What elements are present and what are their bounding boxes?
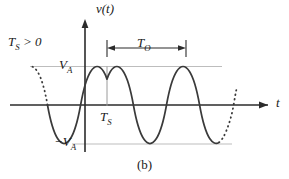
negative-amplitude-label: −VA <box>54 135 76 148</box>
y-axis-label: v(t) <box>96 2 114 15</box>
x-axis-arrowhead <box>259 102 268 109</box>
waveform-plot <box>0 0 289 179</box>
period-arrowhead-right <box>178 45 186 51</box>
period-arrowhead-left <box>107 45 115 51</box>
figure-caption: (b) <box>0 158 289 171</box>
y-axis-arrowhead <box>82 19 89 28</box>
positive-amplitude-label: VA <box>59 58 72 71</box>
shift-condition-label: TS > 0 <box>8 35 41 48</box>
period-label: TO <box>137 36 151 49</box>
figure-container: v(t) t TS > 0 VA −VA TS TO (b) <box>0 0 289 179</box>
time-shift-label: TS <box>100 110 112 123</box>
dashed-left-continuation <box>31 67 47 106</box>
dashed-right-continuation <box>219 90 236 143</box>
x-axis-label: t <box>276 96 280 109</box>
